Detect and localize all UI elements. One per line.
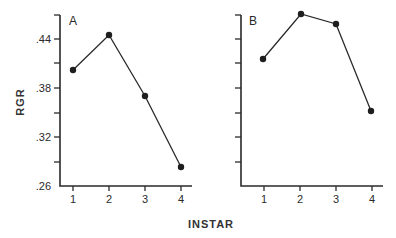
panel-a-label: A: [69, 14, 77, 28]
ytick-label-026: .26: [36, 180, 51, 192]
figure: RGR .44 .38 .32 .26 1 2 3 4 A: [0, 0, 396, 238]
panel-b-xtick-4: 4: [369, 193, 375, 205]
x-axis-title: INSTAR: [188, 218, 234, 230]
panel-b-point-4: [368, 108, 374, 114]
panel-a: .44 .38 .32 .26 1 2 3 4 A: [36, 14, 192, 205]
panel-b-point-1: [260, 56, 266, 62]
panel-a-point-1: [70, 67, 76, 73]
panel-a-xtick-3: 3: [142, 193, 148, 205]
y-axis-title: RGR: [14, 88, 26, 115]
panel-b-point-3: [333, 21, 339, 27]
ytick-label-038: .38: [36, 82, 51, 94]
panel-a-xtick-2: 2: [106, 193, 112, 205]
panel-b-point-2: [298, 11, 304, 17]
panel-a-xtick-1: 1: [70, 193, 76, 205]
panel-a-point-3: [142, 93, 148, 99]
panel-b-axes: [241, 15, 383, 186]
panel-a-point-4: [178, 164, 184, 170]
panel-b-series-line: [263, 14, 371, 111]
panel-b-y-ticks: [235, 15, 241, 162]
panel-b: 1 2 3 4 B: [235, 11, 383, 205]
panel-a-axes: [60, 15, 192, 186]
ytick-label-032: .32: [36, 131, 51, 143]
panel-b-xtick-3: 3: [333, 193, 339, 205]
panel-a-y-ticks: [54, 15, 60, 162]
panel-b-label: B: [249, 14, 257, 28]
ytick-label-044: .44: [36, 33, 51, 45]
panel-a-point-2: [106, 32, 112, 38]
panel-a-series-line: [73, 35, 181, 167]
panel-a-xtick-4: 4: [178, 193, 184, 205]
panel-b-xtick-1: 1: [261, 193, 267, 205]
panel-b-xtick-2: 2: [297, 193, 303, 205]
